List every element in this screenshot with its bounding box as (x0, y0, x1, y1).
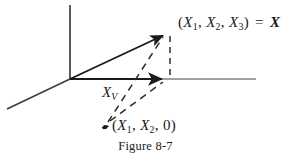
foot-label-close-paren: ) (171, 117, 176, 133)
vector-label-close-paren: ) (244, 14, 249, 30)
vector-label-equals: = (253, 14, 266, 30)
depth-axis (7, 79, 70, 109)
foot-label-comma-2: , (155, 117, 159, 133)
foot-label-var-2: X (140, 117, 149, 133)
label-foot-point: (X1, X2, 0) (112, 118, 176, 135)
vector-label-comma-2: , (221, 14, 225, 30)
projection-label-sub: V (111, 91, 117, 102)
vector-label-comma-1: , (198, 14, 202, 30)
point-marker-dot-core (103, 125, 107, 129)
label-vector-endpoint: (X1, X2, X3) = X (178, 15, 280, 32)
figure-8-7-diagram: (X1, X2, X3) = X XV (X1, X2, 0) Figure 8… (0, 0, 291, 163)
dashed-line-to-projection-tip (110, 82, 163, 121)
vector-label-name: X (270, 14, 280, 30)
vector-label-var-1: X (183, 14, 192, 30)
projection-label-var: X (102, 84, 111, 100)
foot-label-var-1: X (117, 117, 126, 133)
foot-label-zero: 0 (163, 117, 171, 133)
label-projection-vector: XV (102, 85, 117, 102)
foot-label-comma-1: , (132, 117, 136, 133)
figure-caption: Figure 8-7 (0, 140, 291, 153)
vector-label-var-2: X (206, 14, 215, 30)
